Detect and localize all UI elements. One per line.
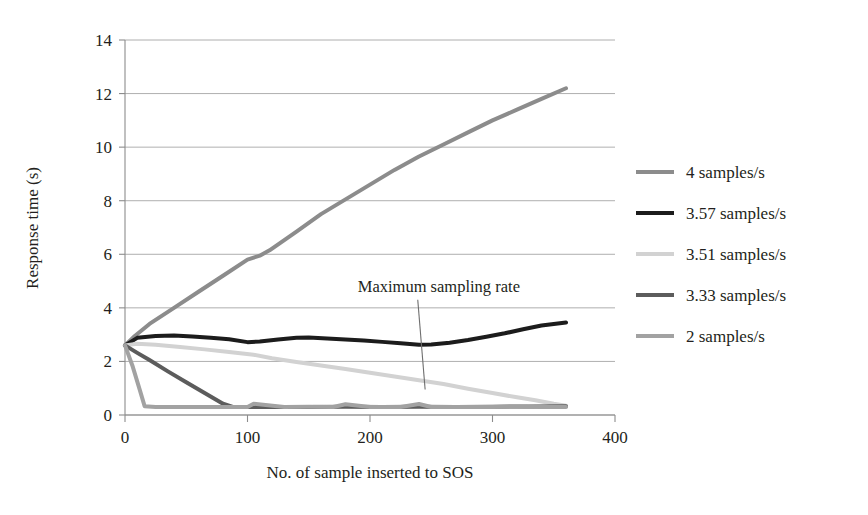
y-tick-label: 12 <box>95 85 112 104</box>
y-tick-label: 14 <box>95 31 113 50</box>
y-tick-label: 10 <box>95 138 112 157</box>
x-tick-labels: 0100200300400 <box>121 428 628 447</box>
legend-label-4: 2 samples/s <box>686 327 765 346</box>
y-tick-label: 0 <box>104 406 113 425</box>
legend-item-2[interactable]: 3.51 samples/s <box>636 245 786 264</box>
x-tick-label: 300 <box>480 428 506 447</box>
series-line-3 <box>125 345 566 407</box>
line-chart-svg: 02468101214 0100200300400 Maximum sampli… <box>0 0 868 515</box>
legend-label-2: 3.51 samples/s <box>686 245 786 264</box>
x-tick-label: 0 <box>121 428 130 447</box>
axis-lines <box>125 40 615 415</box>
legend: 4 samples/s3.57 samples/s3.51 samples/s3… <box>636 163 786 346</box>
x-tick-label: 200 <box>357 428 383 447</box>
legend-item-3[interactable]: 3.33 samples/s <box>636 286 786 305</box>
x-axis-title: No. of sample inserted to SOS <box>267 463 474 482</box>
y-tick-labels: 02468101214 <box>95 31 113 425</box>
gridlines <box>125 40 615 415</box>
chart-figure: 02468101214 0100200300400 Maximum sampli… <box>0 0 868 515</box>
legend-item-1[interactable]: 3.57 samples/s <box>636 204 786 223</box>
y-tick-label: 6 <box>104 245 113 264</box>
legend-label-0: 4 samples/s <box>686 163 765 182</box>
legend-item-0[interactable]: 4 samples/s <box>636 163 765 182</box>
y-tick-label: 8 <box>104 192 113 211</box>
series-line-0 <box>125 88 566 345</box>
y-tick-label: 2 <box>104 352 113 371</box>
y-tick-label: 4 <box>104 299 113 318</box>
annotation-label-0: Maximum sampling rate <box>358 277 520 296</box>
legend-item-4[interactable]: 2 samples/s <box>636 327 765 346</box>
series-line-4 <box>125 345 566 407</box>
x-tick-label: 100 <box>235 428 261 447</box>
x-tick-label: 400 <box>602 428 628 447</box>
series-line-1 <box>125 323 566 346</box>
legend-label-1: 3.57 samples/s <box>686 204 786 223</box>
legend-label-3: 3.33 samples/s <box>686 286 786 305</box>
y-axis-title: Response time (s) <box>23 167 42 289</box>
series-line-2 <box>125 344 566 406</box>
data-series <box>125 88 566 407</box>
